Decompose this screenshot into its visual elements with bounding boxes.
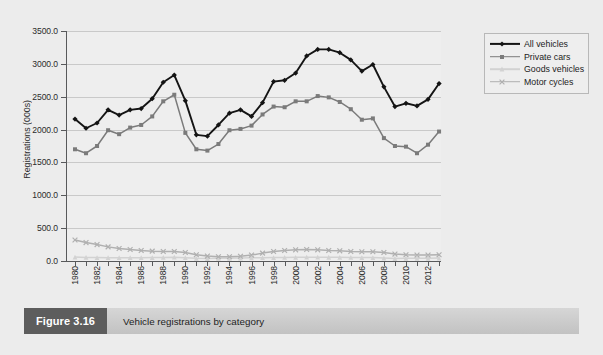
legend-marker-triangle-icon (498, 65, 507, 74)
series-goods-vehicles (73, 255, 442, 261)
y-tick-label: 2000.0 (32, 125, 58, 135)
x-tick (86, 261, 87, 266)
data-point (194, 132, 199, 137)
series-private-cars (73, 93, 441, 155)
figure-caption-bar: Figure 3.16 Vehicle registrations by cat… (24, 308, 579, 334)
x-tick-label: 1990 (180, 266, 190, 285)
figure-number: Figure 3.16 (24, 308, 107, 334)
legend-item-goods-vehicles: Goods vehicles (490, 63, 583, 76)
data-point (106, 128, 110, 132)
x-tick (218, 261, 219, 266)
legend-swatch (490, 76, 520, 87)
legend-item-private-cars: Private cars (490, 51, 583, 64)
data-point (316, 94, 320, 98)
data-point (393, 144, 397, 148)
data-point (327, 95, 331, 99)
x-tick-label: 1980 (70, 266, 80, 285)
data-point (183, 98, 188, 103)
legend-label: Goods vehicles (524, 64, 584, 74)
data-point (227, 128, 231, 132)
y-tick-label: 2500.0 (32, 92, 58, 102)
y-tick-label: 3000.0 (32, 59, 58, 69)
data-point (404, 145, 408, 149)
figure-page: Registrations (000s) 0.0500.01000.01500.… (0, 0, 603, 355)
x-tick-label: 1994 (224, 266, 234, 285)
data-point (73, 147, 77, 151)
figure-caption-text: Vehicle registrations by category (107, 308, 264, 334)
data-point (161, 99, 165, 103)
data-point (216, 142, 220, 146)
x-tick (174, 261, 175, 266)
y-tick-label: 0.0 (46, 256, 58, 266)
x-tick (417, 261, 418, 266)
data-point (382, 136, 386, 140)
x-tick (351, 261, 352, 266)
data-point (371, 116, 375, 120)
data-point (305, 99, 309, 103)
series-layer (67, 31, 441, 261)
data-point (360, 118, 364, 122)
x-tick-label: 1982 (92, 266, 102, 285)
series-motor-cycles (73, 238, 442, 260)
x-tick (395, 261, 396, 266)
data-point (326, 47, 331, 52)
x-tick (152, 261, 153, 266)
legend-swatch (490, 64, 520, 75)
x-tick (240, 261, 241, 266)
x-tick-label: 2002 (313, 266, 323, 285)
data-point (415, 151, 419, 155)
legend-label: All vehicles (524, 39, 568, 49)
x-tick (108, 261, 109, 266)
series-line (75, 49, 439, 136)
x-tick-label: 1996 (247, 266, 257, 285)
x-tick-label: 1992 (202, 266, 212, 285)
data-point (272, 105, 276, 109)
legend-item-motor-cycles: Motor cycles (490, 76, 583, 89)
series-line (75, 95, 439, 153)
legend-swatch (490, 51, 520, 62)
data-point (294, 99, 298, 103)
y-tick-label: 500.0 (37, 223, 58, 233)
x-tick-label: 1998 (269, 266, 279, 285)
legend-item-all-vehicles: All vehicles (490, 38, 583, 51)
x-tick (373, 261, 374, 266)
x-tick-label: 1986 (136, 266, 146, 285)
legend-label: Motor cycles (524, 77, 573, 87)
x-tick (439, 261, 440, 266)
x-tick-label: 2008 (379, 266, 389, 285)
data-point (183, 131, 187, 135)
data-point (261, 112, 265, 116)
x-tick (263, 261, 264, 266)
data-point (194, 147, 198, 151)
plot-area: 0.0500.01000.01500.02000.02500.03000.035… (66, 31, 441, 262)
legend-marker-cross-icon (498, 77, 507, 86)
y-tick-label: 1500.0 (32, 157, 58, 167)
legend-label: Private cars (524, 52, 570, 62)
data-point (403, 101, 408, 106)
y-tick-label: 1000.0 (32, 190, 58, 200)
x-tick-label: 1988 (158, 266, 168, 285)
legend-marker-diamond-icon (498, 40, 507, 49)
legend-swatch (490, 39, 520, 50)
x-tick (196, 261, 197, 266)
data-point (338, 100, 342, 104)
x-tick-label: 2010 (401, 266, 411, 285)
data-point (437, 130, 441, 134)
data-point (128, 126, 132, 130)
x-tick-label: 2000 (291, 266, 301, 285)
legend-marker-square-icon (498, 52, 507, 61)
data-point (150, 114, 154, 118)
data-point (205, 149, 209, 153)
y-tick (61, 261, 67, 262)
data-point (426, 143, 430, 147)
data-point (117, 132, 121, 136)
y-tick-label: 3500.0 (32, 26, 58, 36)
data-point (250, 124, 254, 128)
line-chart: Registrations (000s) 0.0500.01000.01500.… (0, 0, 603, 300)
x-tick (329, 261, 330, 266)
x-tick (285, 261, 286, 266)
data-point (84, 151, 88, 155)
x-tick-label: 2004 (335, 266, 345, 285)
x-tick-label: 2012 (423, 266, 433, 285)
data-point (172, 93, 176, 97)
